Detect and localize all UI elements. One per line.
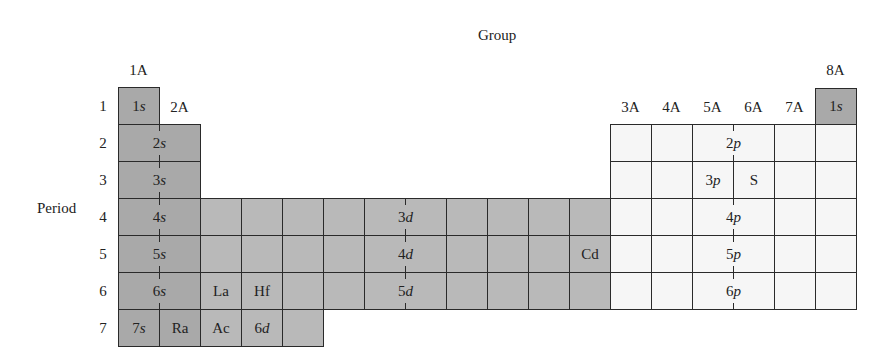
- cell-ra: Ra: [159, 309, 201, 347]
- cell-p-r4-c18: [815, 198, 857, 236]
- cell-p-r3-c13: [610, 161, 652, 199]
- cell-p-r4-c14: [651, 198, 693, 236]
- cell-p-r2-c14: [651, 124, 693, 162]
- cell-1s-group-8a: 1s: [815, 88, 857, 125]
- cell-d-r4-c3: [200, 198, 242, 236]
- group-label-5a: 5A: [692, 99, 733, 115]
- cell-p-r5-c14: [651, 235, 693, 273]
- period-label-1: 1: [96, 98, 110, 114]
- element-symbol-hf: Hf: [254, 283, 270, 300]
- cell-s-sulfur: S: [733, 161, 775, 199]
- cell-3d: 3d: [364, 198, 447, 236]
- group-label-3a: 3A: [610, 99, 651, 115]
- orbital-label-6p: 6p: [726, 283, 741, 300]
- period-label-2: 2: [96, 135, 110, 151]
- cell-p-r5-c17: [774, 235, 816, 273]
- group-axis-title: Group: [478, 27, 516, 43]
- cell-d-r6-c6: [323, 272, 365, 310]
- cell-6d: 6d: [241, 309, 283, 347]
- orbital-label-5p: 5p: [726, 246, 741, 263]
- cell-5d: 5d: [364, 272, 447, 310]
- cell-ac: Ac: [200, 309, 242, 347]
- cell-d-r5-c9: [446, 235, 488, 273]
- period-label-3: 3: [96, 172, 110, 188]
- element-symbol-cd: Cd: [581, 246, 599, 263]
- orbital-label-2p: 2p: [726, 135, 741, 152]
- cell-la: La: [200, 272, 242, 310]
- cell-p-r2-c13: [610, 124, 652, 162]
- period-label-6: 6: [96, 283, 110, 299]
- cell-4d: 4d: [364, 235, 447, 273]
- group-label-8a: 8A: [815, 62, 856, 78]
- cell-p-r2-c17: [774, 124, 816, 162]
- cell-d-r5-c6: [323, 235, 365, 273]
- cell-cd: Cd: [569, 235, 611, 273]
- cell-d-r4-c11: [528, 198, 570, 236]
- cell-d-r4-c5: [282, 198, 324, 236]
- cell-p-r3-c14: [651, 161, 693, 199]
- orbital-label-3d: 3d: [398, 209, 413, 226]
- cell-p-r6-c13: [610, 272, 652, 310]
- orbital-label-3s: 3s: [153, 172, 166, 189]
- cell-p-r6-c18: [815, 272, 857, 310]
- cell-p-r4-c17: [774, 198, 816, 236]
- orbital-label-4s: 4s: [153, 209, 166, 226]
- cell-p-r3-c18: [815, 161, 857, 199]
- orbital-label-5d: 5d: [398, 283, 413, 300]
- element-symbol-ra: Ra: [172, 320, 189, 337]
- cell-2s: 2s: [118, 124, 201, 162]
- group-label-4a: 4A: [651, 99, 692, 115]
- cell-p-r6-c17: [774, 272, 816, 310]
- period-label-5: 5: [96, 246, 110, 262]
- cell-d-r7-c5: [282, 309, 324, 347]
- element-symbol-s: S: [750, 172, 758, 189]
- cell-d-r4-c9: [446, 198, 488, 236]
- orbital-label-2s: 2s: [153, 135, 166, 152]
- cell-3p: 3p: [692, 161, 734, 199]
- cell-6s: 6s: [118, 272, 201, 310]
- cell-p-r5-c18: [815, 235, 857, 273]
- orbital-label-1s-8a: 1s: [829, 98, 842, 115]
- orbital-label-7s: 7s: [132, 320, 145, 337]
- cell-d-r4-c12: [569, 198, 611, 236]
- cell-d-r5-c10: [487, 235, 529, 273]
- orbital-label-5s: 5s: [153, 246, 166, 263]
- cell-d-r5-c3: [200, 235, 242, 273]
- cell-d-r5-c5: [282, 235, 324, 273]
- orbital-label-4d: 4d: [398, 246, 413, 263]
- cell-1s: 1s: [118, 87, 160, 125]
- period-axis-title: Period: [37, 200, 76, 216]
- cell-d-r6-c5: [282, 272, 324, 310]
- cell-d-r4-c4: [241, 198, 283, 236]
- group-label-6a: 6A: [733, 99, 774, 115]
- cell-p-r6-c14: [651, 272, 693, 310]
- cell-4s: 4s: [118, 198, 201, 236]
- element-symbol-ac: Ac: [212, 320, 230, 337]
- orbital-label-4p: 4p: [726, 209, 741, 226]
- cell-hf: Hf: [241, 272, 283, 310]
- orbital-label-6s: 6s: [153, 283, 166, 300]
- group-label-1a: 1A: [118, 62, 159, 78]
- period-label-4: 4: [96, 209, 110, 225]
- cell-p-r5-c13: [610, 235, 652, 273]
- group-label-2a: 2A: [159, 99, 200, 115]
- orbital-label-1s: 1s: [132, 98, 145, 115]
- period-label-7: 7: [96, 320, 110, 336]
- cell-d-r5-c4: [241, 235, 283, 273]
- cell-d-r4-c10: [487, 198, 529, 236]
- cell-p-r2-c18: [815, 124, 857, 162]
- cell-d-r6-c12: [569, 272, 611, 310]
- cell-4p: 4p: [692, 198, 775, 236]
- cell-3s: 3s: [118, 161, 201, 199]
- cell-6p: 6p: [692, 272, 775, 310]
- cell-p-r4-c13: [610, 198, 652, 236]
- cell-d-r6-c10: [487, 272, 529, 310]
- cell-d-r6-c9: [446, 272, 488, 310]
- orbital-label-6d: 6d: [255, 320, 270, 337]
- cell-7s: 7s: [118, 309, 160, 347]
- orbital-label-3p: 3p: [706, 172, 721, 189]
- element-symbol-la: La: [213, 283, 229, 300]
- cell-2p: 2p: [692, 124, 775, 162]
- cell-d-r5-c11: [528, 235, 570, 273]
- cell-d-r4-c6: [323, 198, 365, 236]
